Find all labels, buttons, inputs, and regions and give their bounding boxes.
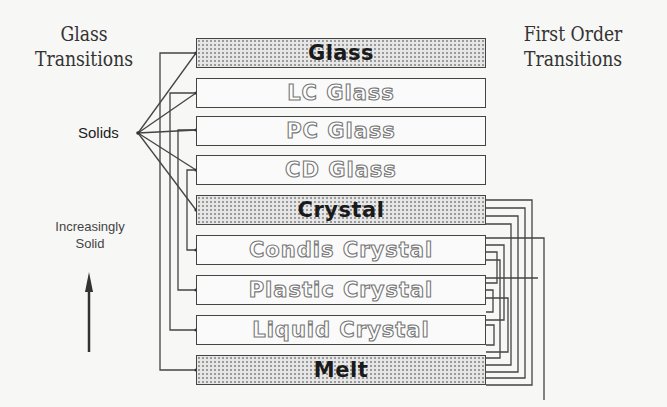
state-box-condis-crystal: Condis Crystal: [196, 235, 486, 265]
heading-line-2: Transitions: [501, 47, 645, 72]
increasingly-solid-label: Increasingly Solid: [38, 218, 142, 252]
state-label: Plastic Crystal: [249, 278, 434, 302]
state-label: PC Glass: [286, 119, 396, 143]
state-box-glass: Glass: [196, 38, 486, 68]
state-box-liquid-crystal: Liquid Crystal: [196, 315, 486, 345]
state-label: LC Glass: [287, 81, 395, 105]
heading-line-2: Transitions: [12, 47, 156, 72]
first-order-transitions-heading: First Order Transitions: [501, 22, 645, 72]
state-label: Condis Crystal: [249, 238, 433, 262]
heading-line-1: First Order: [501, 22, 645, 47]
state-box-plastic-crystal: Plastic Crystal: [196, 275, 486, 305]
up-arrow-icon: [85, 272, 93, 352]
state-label: Glass: [308, 41, 374, 65]
state-label: Crystal: [298, 198, 385, 222]
state-box-crystal: Crystal: [196, 195, 486, 225]
heading-line-1: Glass: [12, 22, 156, 47]
glass-transitions-heading: Glass Transitions: [12, 22, 156, 72]
direction-line-1: Increasingly: [38, 218, 142, 235]
direction-line-2: Solid: [38, 235, 142, 252]
state-label: Liquid Crystal: [252, 318, 429, 342]
state-box-pc-glass: PC Glass: [196, 116, 486, 146]
state-box-melt: Melt: [196, 355, 486, 385]
state-box-cd-glass: CD Glass: [196, 155, 486, 185]
state-box-lc-glass: LC Glass: [196, 78, 486, 108]
state-label: CD Glass: [285, 158, 397, 182]
state-label: Melt: [314, 358, 368, 382]
solids-label: Solids: [78, 124, 119, 141]
